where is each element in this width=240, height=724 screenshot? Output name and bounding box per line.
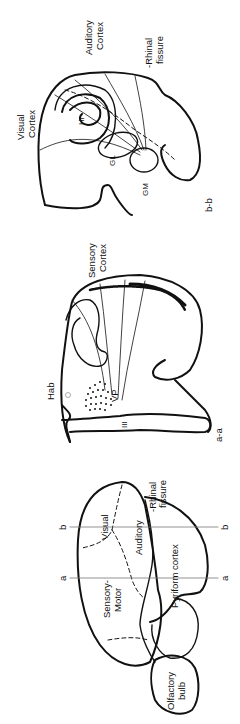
vp-label: VP: [109, 389, 120, 402]
rhinal-fissure-label-2: fissure: [154, 36, 165, 64]
cortex-outline: [38, 72, 199, 205]
pyriform-cortex-label: Pyriform cortex: [169, 544, 180, 608]
sensory-motor-label-2: Motor: [112, 588, 123, 612]
projection-line: [72, 300, 105, 390]
auditory-cortex-label-1: Auditory: [83, 20, 94, 55]
gm-label: GM: [141, 183, 150, 196]
section-a-a-label: a-a: [213, 428, 224, 442]
gl-label: GL: [108, 155, 117, 166]
visual-label: Visual: [99, 514, 110, 540]
olfactory-label-2: bulb: [176, 682, 187, 700]
hippocampus-outline: [66, 300, 107, 367]
frontal-boundary: [108, 638, 148, 640]
section-a-a-panel: Sensory Cortex Hab VP III a-a: [45, 243, 224, 442]
ventral-outline: [45, 185, 132, 215]
vp-nucleus-dots: [85, 381, 112, 411]
sensory-motor-label-1: Sensory-: [101, 580, 112, 618]
projection-line: [122, 281, 145, 400]
rhinal-fissure-label-2: fissure: [157, 480, 168, 508]
cortical-layer-band: [90, 286, 185, 310]
midline-outline: [62, 405, 210, 442]
rhinal-fissure-label-1: -Rhinal: [143, 38, 154, 68]
ventral-outline: [175, 380, 211, 432]
brain-diagram-figure: b b a a Visual Auditory Sensory- Motor P…: [0, 0, 240, 724]
habenula-mark: [66, 393, 71, 398]
olfactory-label-1: Olfactory: [165, 672, 176, 710]
section-a-right-label: a: [219, 575, 230, 581]
projection-line: [100, 284, 112, 395]
section-b-b-panel: Visual Cortex Auditory Cortex -Rhinal fi…: [15, 20, 214, 215]
sensory-cortex-label-2: Cortex: [97, 244, 108, 272]
section-b-right-label: b: [219, 525, 230, 530]
section-b-left-label: b: [57, 525, 68, 530]
projection-line: [118, 280, 125, 398]
auditory-label: Auditory: [133, 520, 144, 555]
gm-nucleus: [130, 148, 158, 172]
lateral-view-panel: b b a a Visual Auditory Sensory- Motor P…: [57, 480, 230, 714]
sensory-cortex-label-1: Sensory: [86, 243, 97, 278]
section-b-b-label: b-b: [203, 198, 214, 212]
third-ventricle-label: III: [120, 421, 129, 428]
hi-label: Hi: [77, 117, 86, 125]
gl-nucleus: [96, 128, 141, 162]
auditory-cortex-label-2: Cortex: [94, 22, 105, 50]
visual-cortex-label-2: Cortex: [26, 110, 37, 138]
visual-cortex-label-1: Visual: [15, 114, 26, 140]
section-a-left-label: a: [57, 575, 68, 581]
hab-label: Hab: [45, 383, 56, 400]
